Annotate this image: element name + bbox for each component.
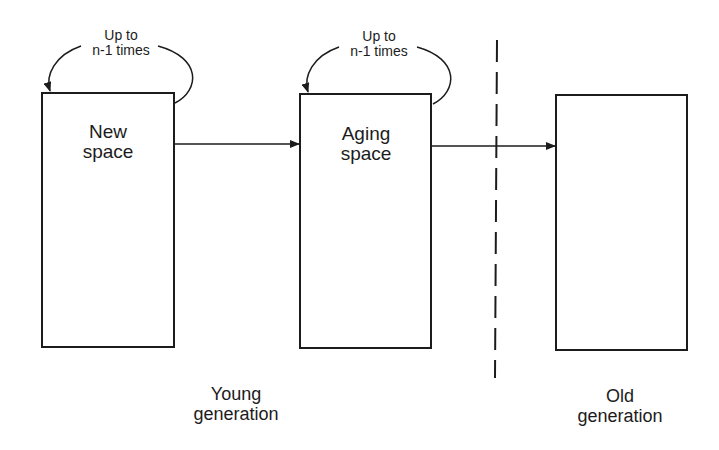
loop-label-2-line1: Up to <box>362 28 396 44</box>
generation-divider <box>495 40 497 378</box>
young-generation-label-line1: Young <box>211 384 261 404</box>
aging-space-label-line1: Aging <box>342 123 391 144</box>
aging-space-label-line2: space <box>341 143 392 164</box>
old-generation-label-line1: Old <box>606 386 634 406</box>
loop-label-2-line2: n-1 times <box>350 43 408 59</box>
old-generation-label-line2: generation <box>577 406 662 426</box>
loop-arrow-aging-space <box>417 47 451 104</box>
young-generation-label-line2: generation <box>193 404 278 424</box>
loop-arrow-new-space-return <box>49 46 81 91</box>
loop-arrow-new-space <box>158 46 193 103</box>
loop-label-1-line2: n-1 times <box>92 42 150 58</box>
loop-label-1-line1: Up to <box>104 27 138 43</box>
diagram-canvas: New space Aging space Up to n-1 times Up… <box>0 0 719 450</box>
loop-arrow-aging-space-return <box>307 47 339 92</box>
new-space-label-line2: space <box>83 141 134 162</box>
new-space-label-line1: New <box>89 121 127 142</box>
old-space-box <box>556 95 687 350</box>
